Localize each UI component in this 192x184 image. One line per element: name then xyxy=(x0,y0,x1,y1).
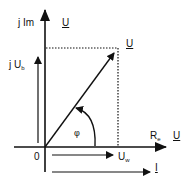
origin-label: 0 xyxy=(34,152,40,162)
angle-label: φ xyxy=(74,129,80,138)
current-label: I xyxy=(155,163,158,173)
reactive-voltage-label: j Ub xyxy=(9,60,25,71)
reactive-voltage-label-sub: b xyxy=(21,65,24,71)
imaginary-axis-label: j Im xyxy=(18,18,34,28)
active-voltage-label: Uw xyxy=(118,152,130,163)
imaginary-axis-vector-label: U xyxy=(62,18,69,28)
voltage-vector-label: U xyxy=(126,39,133,49)
real-axis-label-sub: e xyxy=(157,136,160,142)
real-axis-vector-label: U xyxy=(173,131,180,141)
reactive-voltage-label-main: j U xyxy=(9,59,21,70)
angle-arc xyxy=(76,108,95,146)
active-voltage-label-sub: w xyxy=(125,157,129,163)
real-axis-label: Re xyxy=(150,131,161,142)
